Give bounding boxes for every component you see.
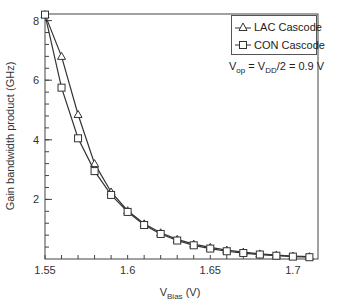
- y-axis-label: Gain bandwidth product (GHz): [4, 62, 16, 211]
- legend: LAC Cascode CON Cascode: [231, 15, 317, 55]
- square-marker: [42, 11, 49, 18]
- svg-text:2: 2: [33, 193, 39, 205]
- svg-text:1.6: 1.6: [120, 264, 135, 276]
- square-marker: [174, 237, 181, 244]
- svg-text:1.65: 1.65: [200, 264, 221, 276]
- legend-item-con: CON Cascode: [232, 36, 325, 53]
- square-marker: [141, 222, 148, 229]
- square-marker: [240, 250, 247, 257]
- legend-label: LAC Cascode: [254, 21, 322, 33]
- square-marker: [91, 168, 98, 175]
- svg-text:1.55: 1.55: [34, 264, 55, 276]
- square-marker: [223, 248, 230, 255]
- svg-text:4: 4: [33, 134, 39, 146]
- svg-text:6: 6: [33, 74, 39, 86]
- square-marker: [289, 253, 296, 260]
- square-marker: [207, 245, 214, 252]
- square-marker: [124, 208, 131, 215]
- square-marker: [273, 252, 280, 259]
- square-marker: [108, 191, 115, 198]
- x-axis-label: VBias (V): [160, 286, 201, 301]
- square-icon: [235, 39, 251, 51]
- triangle-marker: [74, 110, 82, 117]
- square-marker: [157, 230, 164, 237]
- operating-point-annotation: Vop = VDD/2 = 0.9 V: [229, 60, 324, 75]
- svg-text:8: 8: [33, 15, 39, 27]
- legend-item-lac: LAC Cascode: [232, 18, 322, 35]
- square-marker: [190, 242, 197, 249]
- square-marker: [256, 251, 263, 258]
- triangle-marker: [58, 52, 66, 59]
- square-marker: [306, 254, 313, 261]
- legend-label: CON Cascode: [254, 39, 325, 51]
- svg-text:1.7: 1.7: [285, 264, 300, 276]
- square-marker: [58, 84, 65, 91]
- square-marker: [75, 135, 82, 142]
- triangle-icon: [235, 21, 251, 33]
